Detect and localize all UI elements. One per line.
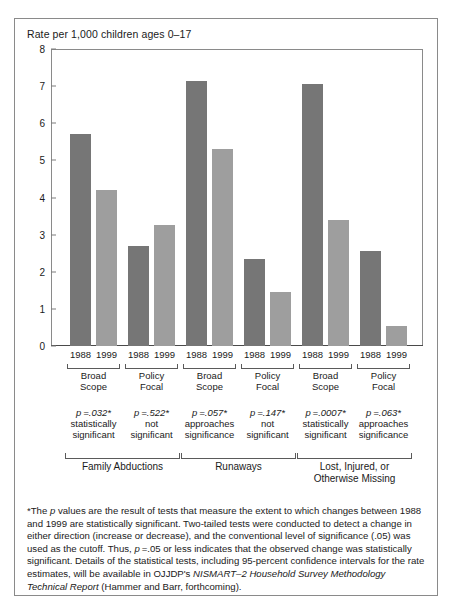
scope-label-line1: Policy — [349, 370, 418, 381]
y-tick-mark — [51, 271, 56, 272]
y-tick-mark — [51, 160, 56, 161]
x-year-label: 1999 — [149, 349, 180, 360]
y-tick-mark — [51, 123, 56, 124]
y-tick-label: 7 — [39, 81, 45, 92]
bar-1999-3 — [270, 292, 291, 346]
x-axis-year-labels: 1988199919881999198819991988199919881999… — [51, 349, 423, 362]
y-tick-label: 6 — [39, 118, 45, 129]
bar-1988-5 — [360, 251, 381, 346]
category-bracket — [181, 453, 296, 459]
x-year-label: 1999 — [207, 349, 238, 360]
y-tick-mark — [51, 86, 56, 87]
y-tick-label: 2 — [39, 266, 45, 277]
chart-title: Rate per 1,000 children ages 0–17 — [27, 28, 191, 40]
footnote-italic-p: p — [50, 505, 55, 516]
bar-1988-4 — [302, 84, 323, 346]
scope-bracket — [241, 364, 294, 369]
category-bracket — [297, 453, 412, 459]
scope-label: PolicyFocal — [349, 370, 418, 392]
scope-bracket — [183, 364, 236, 369]
y-tick-label: 1 — [39, 303, 45, 314]
bar-1999-1 — [154, 225, 175, 346]
y-tick-label: 3 — [39, 229, 45, 240]
p-value-annotations: p =.032*statisticallysignificantp =.522*… — [51, 407, 423, 447]
bar-1988-1 — [128, 246, 149, 346]
scope-bracket — [357, 364, 410, 369]
y-tick-label: 5 — [39, 155, 45, 166]
p-note-line2: significance — [348, 429, 419, 440]
y-tick-mark — [51, 346, 56, 347]
x-year-label: 1999 — [323, 349, 354, 360]
category-label: Runaways — [171, 461, 306, 473]
y-tick-mark — [51, 308, 56, 309]
p-value: p =.063* — [348, 407, 419, 418]
scope-bracket — [299, 364, 352, 369]
scope-bracket — [125, 364, 178, 369]
x-year-label: 1999 — [265, 349, 296, 360]
y-tick-mark — [51, 49, 56, 50]
category-label-line1: Lost, Injured, or — [287, 461, 422, 473]
scope-brackets: BroadScopePolicyFocalBroadScopePolicyFoc… — [51, 364, 423, 406]
category-bracket — [65, 453, 180, 459]
y-tick-mark — [51, 234, 56, 235]
y-tick-label: 4 — [39, 192, 45, 203]
category-label-line2: Otherwise Missing — [287, 473, 422, 485]
p-note-line1: approaches — [348, 418, 419, 429]
category-brackets: Family AbductionsRunawaysLost, Injured, … — [51, 453, 423, 493]
bar-1988-3 — [244, 259, 265, 346]
bar-1988-0 — [70, 134, 91, 346]
footnote-report-title: NISMART–2 Household Survey Methodology T… — [27, 568, 385, 592]
bar-1988-2 — [186, 81, 207, 346]
bar-1999-2 — [212, 149, 233, 346]
category-label: Family Abductions — [55, 461, 190, 473]
p-value-block: p =.063*approachessignificance — [348, 407, 419, 441]
x-year-label: 1999 — [381, 349, 412, 360]
category-label: Lost, Injured, orOtherwise Missing — [287, 461, 422, 485]
bar-1999-5 — [386, 326, 407, 346]
footnote-text: *The p values are the result of tests th… — [27, 505, 425, 593]
y-tick-mark — [51, 197, 56, 198]
x-year-label: 1999 — [91, 349, 122, 360]
bar-1999-0 — [96, 190, 117, 346]
bar-1999-4 — [328, 220, 349, 346]
scope-label-line2: Focal — [349, 381, 418, 392]
scope-bracket — [67, 364, 120, 369]
y-tick-label: 8 — [39, 44, 45, 55]
footnote-italic-p2: p — [134, 543, 139, 554]
figure-panel: Rate per 1,000 children ages 0–17 012345… — [14, 18, 438, 596]
y-tick-label: 0 — [39, 341, 45, 352]
plot-area: 012345678 — [51, 49, 423, 346]
